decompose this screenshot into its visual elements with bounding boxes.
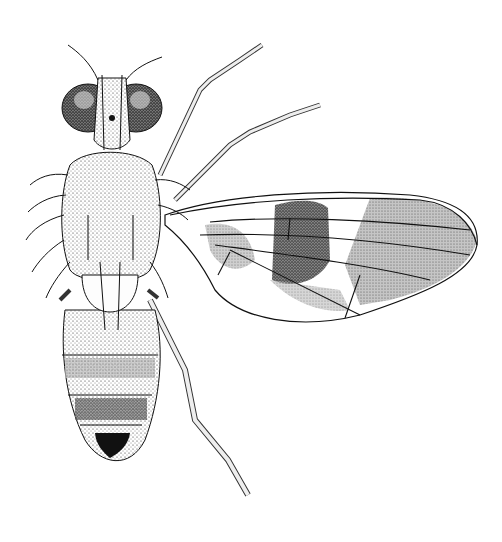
fly-illustration	[0, 0, 502, 542]
leg-front-right	[160, 45, 262, 175]
abdomen	[62, 310, 160, 461]
leg-mid-right	[175, 105, 320, 200]
scutellum	[82, 275, 138, 312]
wing-band-dark	[272, 201, 330, 284]
thorax	[26, 152, 190, 330]
head	[62, 45, 162, 150]
wing	[165, 192, 477, 322]
fly-drawing	[0, 0, 502, 542]
